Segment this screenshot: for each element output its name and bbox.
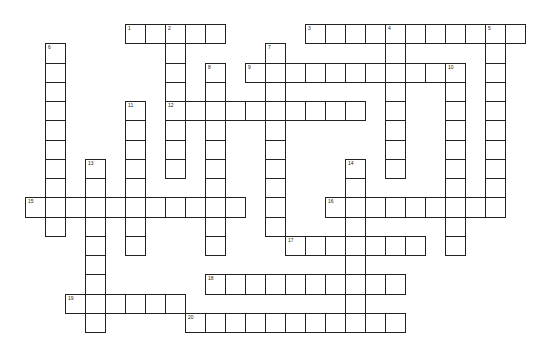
crossword-cell[interactable] xyxy=(225,313,246,333)
crossword-cell[interactable] xyxy=(85,236,106,256)
crossword-cell[interactable] xyxy=(245,313,266,333)
crossword-cell[interactable] xyxy=(225,197,246,217)
crossword-cell[interactable] xyxy=(285,274,306,294)
crossword-cell[interactable] xyxy=(45,101,66,121)
crossword-cell[interactable] xyxy=(125,140,146,160)
crossword-cell[interactable] xyxy=(125,159,146,179)
crossword-cell[interactable] xyxy=(85,255,106,275)
crossword-cell[interactable] xyxy=(345,236,366,256)
crossword-cell[interactable] xyxy=(385,101,406,121)
crossword-cell[interactable] xyxy=(365,313,386,333)
crossword-cell[interactable] xyxy=(465,24,486,44)
crossword-cell[interactable]: 5 xyxy=(485,24,506,44)
crossword-cell[interactable] xyxy=(165,120,186,140)
crossword-cell[interactable] xyxy=(205,217,226,237)
crossword-cell[interactable] xyxy=(345,274,366,294)
crossword-cell[interactable] xyxy=(385,82,406,102)
crossword-cell[interactable] xyxy=(205,140,226,160)
crossword-cell[interactable] xyxy=(245,274,266,294)
crossword-cell[interactable] xyxy=(485,82,506,102)
crossword-cell[interactable] xyxy=(85,294,106,314)
crossword-cell[interactable] xyxy=(265,274,286,294)
crossword-cell[interactable] xyxy=(265,197,286,217)
crossword-cell[interactable] xyxy=(325,313,346,333)
crossword-cell[interactable] xyxy=(445,159,466,179)
crossword-cell[interactable] xyxy=(365,63,386,83)
crossword-cell[interactable] xyxy=(125,197,146,217)
crossword-cell[interactable]: 13 xyxy=(85,159,106,179)
crossword-cell[interactable]: 7 xyxy=(265,43,286,63)
crossword-cell[interactable] xyxy=(125,236,146,256)
crossword-cell[interactable] xyxy=(485,197,506,217)
crossword-cell[interactable] xyxy=(105,294,126,314)
crossword-cell[interactable]: 14 xyxy=(345,159,366,179)
crossword-cell[interactable] xyxy=(405,63,426,83)
crossword-cell[interactable] xyxy=(85,217,106,237)
crossword-cell[interactable] xyxy=(305,313,326,333)
crossword-cell[interactable] xyxy=(45,159,66,179)
crossword-cell[interactable] xyxy=(165,63,186,83)
crossword-cell[interactable] xyxy=(265,120,286,140)
crossword-cell[interactable] xyxy=(45,120,66,140)
crossword-cell[interactable] xyxy=(285,63,306,83)
crossword-cell[interactable] xyxy=(385,43,406,63)
crossword-cell[interactable] xyxy=(485,140,506,160)
crossword-cell[interactable] xyxy=(165,140,186,160)
crossword-cell[interactable] xyxy=(125,178,146,198)
crossword-cell[interactable]: 15 xyxy=(25,197,46,217)
crossword-cell[interactable] xyxy=(325,24,346,44)
crossword-cell[interactable] xyxy=(45,217,66,237)
crossword-cell[interactable]: 17 xyxy=(285,236,306,256)
crossword-cell[interactable] xyxy=(125,120,146,140)
crossword-cell[interactable] xyxy=(405,197,426,217)
crossword-cell[interactable] xyxy=(325,274,346,294)
crossword-cell[interactable] xyxy=(285,101,306,121)
crossword-cell[interactable] xyxy=(485,63,506,83)
crossword-cell[interactable] xyxy=(145,24,166,44)
crossword-cell[interactable] xyxy=(445,82,466,102)
crossword-cell[interactable] xyxy=(165,82,186,102)
crossword-cell[interactable] xyxy=(345,217,366,237)
crossword-cell[interactable] xyxy=(445,217,466,237)
crossword-cell[interactable] xyxy=(285,313,306,333)
crossword-cell[interactable] xyxy=(445,178,466,198)
crossword-cell[interactable] xyxy=(165,43,186,63)
crossword-cell[interactable] xyxy=(265,159,286,179)
crossword-cell[interactable] xyxy=(185,101,206,121)
crossword-cell[interactable] xyxy=(45,82,66,102)
crossword-cell[interactable] xyxy=(265,82,286,102)
crossword-cell[interactable]: 4 xyxy=(385,24,406,44)
crossword-cell[interactable] xyxy=(365,24,386,44)
crossword-cell[interactable] xyxy=(165,197,186,217)
crossword-cell[interactable] xyxy=(325,236,346,256)
crossword-cell[interactable] xyxy=(85,313,106,333)
crossword-cell[interactable] xyxy=(465,197,486,217)
crossword-cell[interactable]: 8 xyxy=(205,63,226,83)
crossword-cell[interactable]: 18 xyxy=(205,274,226,294)
crossword-cell[interactable] xyxy=(85,197,106,217)
crossword-cell[interactable] xyxy=(265,178,286,198)
crossword-cell[interactable] xyxy=(345,63,366,83)
crossword-cell[interactable] xyxy=(205,101,226,121)
crossword-cell[interactable] xyxy=(485,159,506,179)
crossword-cell[interactable] xyxy=(485,101,506,121)
crossword-cell[interactable] xyxy=(45,197,66,217)
crossword-cell[interactable] xyxy=(165,159,186,179)
crossword-cell[interactable]: 1 xyxy=(125,24,146,44)
crossword-cell[interactable]: 20 xyxy=(185,313,206,333)
crossword-cell[interactable] xyxy=(265,101,286,121)
crossword-cell[interactable] xyxy=(45,178,66,198)
crossword-cell[interactable] xyxy=(305,236,326,256)
crossword-cell[interactable] xyxy=(205,24,226,44)
crossword-cell[interactable] xyxy=(85,178,106,198)
crossword-cell[interactable] xyxy=(125,294,146,314)
crossword-cell[interactable] xyxy=(445,197,466,217)
crossword-cell[interactable] xyxy=(265,63,286,83)
crossword-cell[interactable] xyxy=(385,197,406,217)
crossword-cell[interactable] xyxy=(185,197,206,217)
crossword-cell[interactable] xyxy=(205,313,226,333)
crossword-cell[interactable]: 16 xyxy=(325,197,346,217)
crossword-cell[interactable] xyxy=(325,101,346,121)
crossword-cell[interactable] xyxy=(345,101,366,121)
crossword-cell[interactable] xyxy=(445,120,466,140)
